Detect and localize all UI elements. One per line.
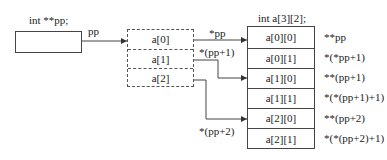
pointer-array-cell: a[2] <box>128 68 193 87</box>
expression-label: *(*(pp+1)+1) <box>324 91 384 103</box>
arrow-label: *(pp+2) <box>199 125 235 137</box>
array-cell: a[1][1] <box>248 88 314 108</box>
array-cell: a[0][0] <box>248 27 314 48</box>
pointer-declaration: int **pp; <box>29 14 68 26</box>
array-2d: a[0][0] a[0][1] a[1][0] a[1][1] a[2][0] … <box>247 26 315 149</box>
arrow-label: *pp <box>209 27 226 39</box>
array-cell: a[2][1] <box>248 128 314 149</box>
expression-label: *(*pp+1) <box>324 51 365 63</box>
pointer-array-cell: a[1] <box>128 49 193 68</box>
expression-label: *(*(pp+2)+1) <box>324 132 384 144</box>
pointer-name-label: pp <box>88 25 99 37</box>
arrow-label: *(pp+1) <box>199 46 235 58</box>
pointer-array: a[0] a[1] a[2] <box>127 29 194 87</box>
expression-label: **(pp+1) <box>324 71 365 83</box>
array-cell: a[0][1] <box>248 48 314 68</box>
expression-label: **pp <box>324 31 346 43</box>
array-cell: a[2][0] <box>248 108 314 128</box>
expression-label: **(pp+2) <box>324 112 365 124</box>
array-declaration: int a[3][2]; <box>258 12 306 24</box>
array-cell: a[1][0] <box>248 68 314 88</box>
pointer-variable-box <box>15 31 82 53</box>
pointer-array-cell: a[0] <box>128 30 193 49</box>
